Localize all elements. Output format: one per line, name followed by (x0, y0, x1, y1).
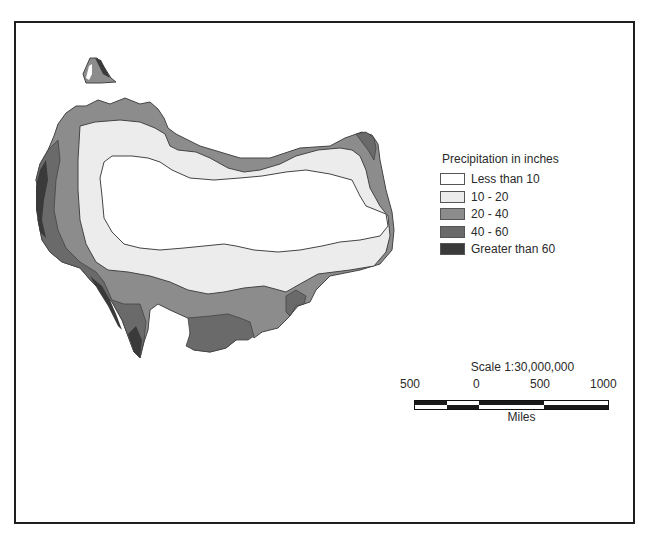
legend-label: 40 - 60 (471, 225, 508, 239)
legend: Precipitation in inches Less than 10 10 … (440, 152, 559, 259)
scale-tick: 0 (473, 377, 480, 391)
legend-item-10-20: 10 - 20 (440, 189, 559, 205)
precipitation-map (0, 0, 654, 539)
legend-swatch (440, 226, 465, 238)
legend-item-greater-than-60: Greater than 60 (440, 241, 559, 257)
scale-title: Scale 1:30,000,000 (415, 360, 630, 374)
scale-bar (414, 400, 609, 410)
legend-title: Precipitation in inches (442, 152, 559, 166)
legend-label: 10 - 20 (471, 190, 508, 204)
scale-units: Miles (400, 410, 630, 424)
legend-swatch (440, 243, 465, 255)
scale-ticks: 500 0 500 1000 (400, 377, 630, 393)
legend-swatch (440, 208, 465, 220)
legend-swatch (440, 191, 465, 203)
scale-tick: 500 (530, 377, 550, 391)
region-40-60-south (186, 314, 254, 352)
legend-item-20-40: 20 - 40 (440, 206, 559, 222)
scale-tick: 500 (400, 377, 420, 391)
legend-item-less-than-10: Less than 10 (440, 171, 559, 187)
region-40-60-bay (286, 290, 306, 316)
island (83, 58, 116, 83)
legend-label: Less than 10 (471, 172, 540, 186)
legend-label: Greater than 60 (471, 242, 555, 256)
scale-bar-group: Scale 1:30,000,000 500 0 500 1000 Miles (400, 360, 630, 393)
scale-tick: 1000 (590, 377, 617, 391)
legend-swatch (440, 173, 465, 185)
legend-item-40-60: 40 - 60 (440, 224, 559, 240)
legend-label: 20 - 40 (471, 207, 508, 221)
